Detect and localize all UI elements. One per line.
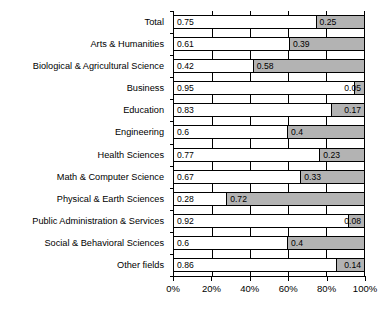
bar-row: 0.60.4 — [174, 236, 364, 250]
bar-value-label: 0.77 — [177, 150, 194, 159]
bar-row: 0.280.72 — [174, 192, 364, 206]
y-axis-tick — [170, 166, 174, 167]
x-axis-tick — [327, 276, 328, 281]
y-axis-tick — [170, 121, 174, 122]
category-label: Math & Computer Science — [0, 172, 164, 182]
bar-value-label: 0.92 — [177, 216, 194, 225]
category-label: Business — [0, 83, 164, 93]
bar-value-label: 0.4 — [291, 238, 303, 247]
category-label: Engineering — [0, 127, 164, 137]
bar-value-label: 0.23 — [323, 150, 340, 159]
bar-segment-primary: 0.92 — [174, 214, 349, 228]
bar-value-label: 0.39 — [293, 40, 310, 49]
y-axis-tick — [170, 144, 174, 145]
bar-value-label: 0.6 — [177, 128, 189, 137]
bar-segment-secondary: 0.25 — [317, 15, 365, 29]
bar-value-label: 0.4 — [291, 128, 303, 137]
category-label: Arts & Humanities — [0, 39, 164, 49]
bar-segment-primary: 0.75 — [174, 15, 317, 29]
bar-row: 0.750.25 — [174, 15, 364, 29]
bar-segment-primary: 0.6 — [174, 236, 288, 250]
x-axis-tick-label: 40% — [240, 283, 259, 294]
bar-value-label: 0.42 — [177, 62, 194, 71]
bar-segment-primary: 0.83 — [174, 103, 332, 117]
bar-value-label: 0.08 — [344, 216, 361, 225]
bar-row: 0.860.14 — [174, 258, 364, 272]
category-label: Other fields — [0, 260, 164, 270]
bar-segment-primary: 0.42 — [174, 59, 254, 73]
bar-value-label: 0.61 — [177, 40, 194, 49]
x-axis-tick — [288, 276, 289, 281]
x-axis-tick-label: 0% — [166, 283, 180, 294]
category-axis: TotalArts & HumanitiesBiological & Agric… — [0, 0, 169, 272]
bar-row: 0.610.39 — [174, 37, 364, 51]
bar-segment-primary: 0.86 — [174, 258, 337, 272]
bar-value-label: 0.95 — [177, 84, 194, 93]
y-axis-tick — [170, 11, 174, 12]
bar-segment-secondary: 0.05 — [355, 81, 365, 95]
category-label: Social & Behavioral Sciences — [0, 238, 164, 248]
bar-value-label: 0.05 — [344, 84, 361, 93]
bar-row: 0.920.08 — [174, 214, 364, 228]
stacked-bar-chart: TotalArts & HumanitiesBiological & Agric… — [0, 0, 386, 311]
bar-value-label: 0.75 — [177, 18, 194, 27]
bar-value-label: 0.72 — [230, 194, 247, 203]
bar-segment-primary: 0.95 — [174, 81, 355, 95]
bar-segment-secondary: 0.4 — [288, 125, 364, 139]
category-label: Physical & Earth Sciences — [0, 194, 164, 204]
category-label: Biological & Agricultural Science — [0, 61, 164, 71]
bar-row: 0.420.58 — [174, 59, 364, 73]
category-label: Total — [0, 17, 164, 27]
y-axis-tick — [170, 210, 174, 211]
bar-segment-secondary: 0.17 — [332, 103, 364, 117]
bar-segment-primary: 0.28 — [174, 192, 227, 206]
bar-segment-primary: 0.61 — [174, 37, 290, 51]
bar-segment-secondary: 0.33 — [301, 170, 364, 184]
bar-value-label: 0.33 — [304, 172, 321, 181]
y-axis-tick — [170, 188, 174, 189]
y-axis-tick — [170, 99, 174, 100]
bar-value-label: 0.6 — [177, 238, 189, 247]
bar-row: 0.830.17 — [174, 103, 364, 117]
bar-row: 0.950.05 — [174, 81, 364, 95]
bar-segment-secondary: 0.72 — [227, 192, 364, 206]
bar-segment-secondary: 0.4 — [288, 236, 364, 250]
y-axis-tick — [170, 232, 174, 233]
bar-segment-primary: 0.77 — [174, 148, 320, 162]
bar-value-label: 0.58 — [257, 62, 274, 71]
bar-value-label: 0.86 — [177, 260, 194, 269]
bar-row: 0.670.33 — [174, 170, 364, 184]
category-label: Health Sciences — [0, 150, 164, 160]
bar-segment-secondary: 0.58 — [254, 59, 364, 73]
bar-segment-primary: 0.6 — [174, 125, 288, 139]
x-axis-tick-label: 100% — [353, 283, 377, 294]
bar-segment-secondary: 0.08 — [349, 214, 364, 228]
bar-value-label: 0.25 — [320, 18, 337, 27]
y-axis-tick — [170, 77, 174, 78]
bar-value-label: 0.83 — [177, 106, 194, 115]
x-axis-tick-label: 20% — [202, 283, 221, 294]
x-axis-tick — [365, 276, 366, 281]
bar-value-label: 0.67 — [177, 172, 194, 181]
category-label: Public Administration & Services — [0, 216, 164, 226]
y-axis-tick — [170, 55, 174, 56]
bar-segment-secondary: 0.39 — [290, 37, 364, 51]
bar-value-label: 0.28 — [177, 194, 194, 203]
bar-row: 0.770.23 — [174, 148, 364, 162]
x-axis-tick-label: 60% — [279, 283, 298, 294]
x-axis-tick — [173, 276, 174, 281]
y-axis-tick — [170, 254, 174, 255]
bar-value-label: 0.17 — [344, 106, 361, 115]
bar-segment-secondary: 0.14 — [337, 258, 364, 272]
bar-segment-secondary: 0.23 — [320, 148, 364, 162]
bar-row: 0.60.4 — [174, 125, 364, 139]
y-axis-tick — [170, 33, 174, 34]
x-axis-tick-label: 80% — [317, 283, 336, 294]
x-axis-tick — [250, 276, 251, 281]
x-axis-tick — [211, 276, 212, 281]
plot-area: 0.750.250.610.390.420.580.950.050.830.17… — [173, 11, 365, 276]
category-label: Education — [0, 105, 164, 115]
bar-value-label: 0.14 — [344, 260, 361, 269]
x-axis-line — [173, 276, 365, 277]
bar-segment-primary: 0.67 — [174, 170, 301, 184]
